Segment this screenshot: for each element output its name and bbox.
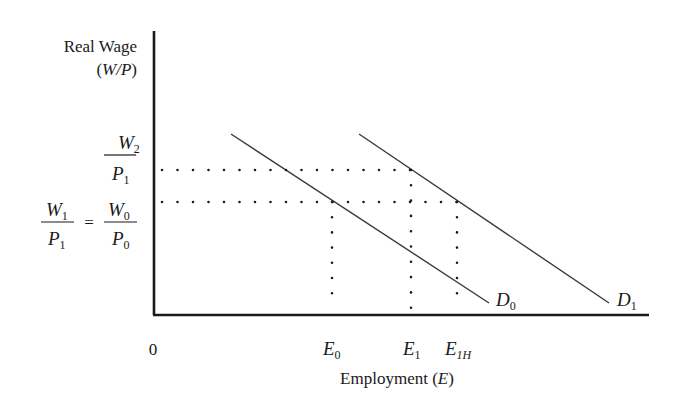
equals-sign: = xyxy=(84,213,94,232)
svg-text:W1: W1 xyxy=(46,199,68,223)
x-tick-e0: E0 xyxy=(322,338,341,362)
y-tick-w2-over-p1: W2 P1 xyxy=(104,132,140,187)
curve-label-d0: D0 xyxy=(495,289,516,313)
y-axis-label: Real Wage xyxy=(64,37,137,56)
origin-label: 0 xyxy=(149,340,158,359)
y-axis-label-var: (W/P) xyxy=(96,60,137,79)
x-tick-e1h: E1H xyxy=(444,338,473,362)
demand-curve-d1 xyxy=(359,134,609,303)
svg-text:P0: P0 xyxy=(111,228,130,252)
x-axis-label: Employment (E) xyxy=(340,369,454,388)
y-tick-w1-over-p1: W1 P1 xyxy=(41,199,74,252)
curve-label-d1: D1 xyxy=(616,289,637,313)
svg-text:W2: W2 xyxy=(118,132,140,156)
demand-curve-d0 xyxy=(231,134,489,303)
x-tick-e1: E1 xyxy=(402,338,421,362)
svg-text:P1: P1 xyxy=(47,228,66,252)
y-tick-w0-over-p0: W0 P0 xyxy=(104,199,137,252)
labor-demand-diagram: Real Wage (W/P) W2 P1 W1 P1 = W0 P0 0 E0… xyxy=(0,0,680,411)
svg-text:W0: W0 xyxy=(108,199,130,223)
svg-text:P1: P1 xyxy=(111,163,130,187)
